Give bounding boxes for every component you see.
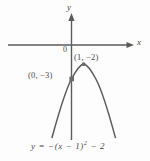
equation-rhs-prefix: −(x − 1) <box>48 141 84 151</box>
y-intercept-point-marker <box>69 77 74 82</box>
origin-label: 0 <box>63 46 67 54</box>
x-axis-label: x <box>137 38 141 47</box>
coordinate-plane-svg <box>0 0 150 161</box>
equation-equals: = <box>38 141 45 151</box>
equation-rhs-suffix: − 2 <box>88 141 105 151</box>
x-axis-arrow-icon <box>127 42 135 48</box>
y-axis-label: y <box>67 3 71 12</box>
y-axis-arrow-icon <box>68 13 74 21</box>
equation-label: y = −(x − 1)2 − 2 <box>31 142 105 151</box>
y-intercept-coordinate-label: (0, −3) <box>28 71 53 80</box>
parabola-graph-figure: y x 0 (1, −2) (0, −3) y = −(x − 1)2 − 2 <box>0 0 150 161</box>
equation-lhs: y <box>31 141 36 151</box>
vertex-point-marker <box>82 62 86 66</box>
parabola-curve <box>52 64 115 138</box>
vertex-coordinate-label: (1, −2) <box>74 53 99 62</box>
